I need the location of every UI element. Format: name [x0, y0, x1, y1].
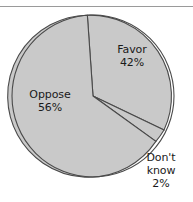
pie-label-favor: Favor 42% — [104, 44, 160, 69]
pie-label-dontknow-name-line2: know — [133, 165, 189, 178]
pie-label-dontknow-value: 2% — [133, 178, 189, 191]
pie-label-favor-name: Favor — [104, 44, 160, 57]
pie-label-dontknow-name-line1: Don't — [133, 152, 189, 165]
pie-chart-figure: Favor 42% Oppose 56% Don't know 2% — [0, 0, 193, 202]
pie-label-favor-value: 42% — [104, 57, 160, 70]
pie-label-oppose: Oppose 56% — [20, 89, 80, 114]
pie-label-oppose-name: Oppose — [20, 89, 80, 102]
pie-label-dontknow: Don't know 2% — [133, 152, 189, 190]
pie-label-oppose-value: 56% — [20, 102, 80, 115]
